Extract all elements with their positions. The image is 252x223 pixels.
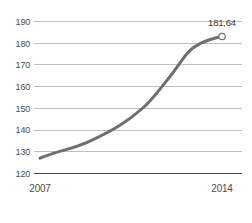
- x-tick-labels-group: 2007 2014: [29, 183, 233, 194]
- data-series-line: [40, 37, 220, 158]
- y-tick-label-190: 190: [16, 17, 31, 27]
- line-chart: 190 180 170 160 150 140 130 120 2007 201…: [0, 0, 252, 223]
- y-tick-label-160: 160: [16, 82, 31, 92]
- data-point-label-2014: 181,64: [208, 17, 236, 28]
- y-tick-labels-group: 190 180 170 160 150 140 130 120: [16, 17, 31, 179]
- y-tick-label-170: 170: [16, 60, 31, 70]
- y-tick-label-140: 140: [16, 125, 31, 135]
- data-point-marker-2014: [219, 33, 225, 39]
- y-tick-label-130: 130: [16, 147, 31, 157]
- y-tick-label-120: 120: [16, 169, 31, 179]
- chart-canvas: 190 180 170 160 150 140 130 120 2007 201…: [0, 0, 252, 223]
- y-tick-label-150: 150: [16, 104, 31, 114]
- gridlines-group: [34, 22, 242, 152]
- y-tick-label-180: 180: [16, 39, 31, 49]
- x-tick-label-2014: 2014: [211, 183, 233, 194]
- x-tick-label-2007: 2007: [29, 183, 51, 194]
